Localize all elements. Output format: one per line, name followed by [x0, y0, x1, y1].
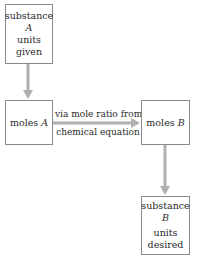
box-substance-b-line1: substance	[141, 200, 190, 212]
box-moles-a: moles A	[5, 100, 53, 145]
box-moles-a-text: moles A	[10, 117, 48, 129]
box-substance-b-line3: units	[154, 227, 178, 239]
conversion-label-line2: chemical equation	[55, 127, 141, 138]
box-moles-a-var: A	[41, 117, 48, 128]
box-substance-a-line3: units	[17, 34, 41, 46]
box-substance-b-line4: desired	[148, 239, 184, 251]
box-moles-b-prefix: moles	[146, 117, 174, 128]
box-moles-a-prefix: moles	[10, 117, 38, 128]
box-substance-a-line1: substance	[5, 10, 54, 22]
box-moles-b-var: B	[178, 117, 185, 128]
box-substance-a-line4: given	[16, 46, 42, 58]
box-substance-b-line2: B	[162, 212, 169, 224]
arrow-substance-a-to-moles-a	[23, 64, 33, 99]
box-substance-b: substance B units desired	[141, 196, 190, 255]
arrow-moles-b-to-substance-b	[160, 145, 170, 195]
conversion-label-line1: via mole ratio from	[55, 109, 141, 120]
box-substance-a: substance A units given	[5, 4, 53, 64]
box-moles-b-text: moles B	[146, 117, 184, 129]
box-substance-a-line2: A	[26, 22, 33, 34]
box-moles-b: moles B	[141, 100, 190, 145]
